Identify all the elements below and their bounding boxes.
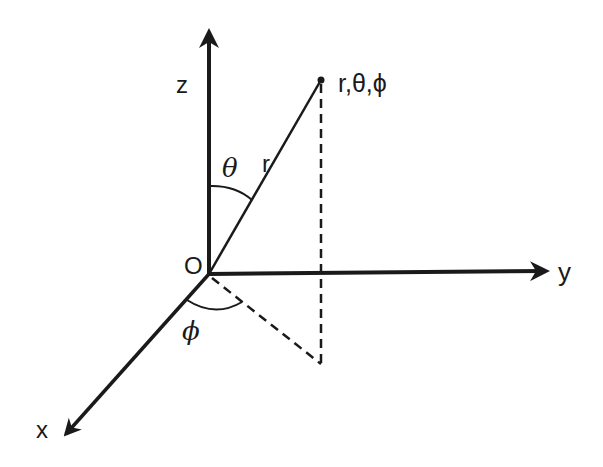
point-marker [318, 77, 325, 84]
phi-arc [187, 300, 242, 310]
theta-arc [209, 186, 252, 200]
theta-label: θ [222, 153, 238, 183]
z-axis-label: z [176, 71, 188, 98]
y-axis-label: y [558, 257, 571, 287]
x-axis [66, 274, 209, 434]
origin-label: O [184, 252, 203, 279]
radius-label: r [262, 150, 270, 177]
point-label: r,θ,ϕ [338, 69, 387, 97]
xy-projection-dashed [212, 278, 321, 364]
y-axis [209, 271, 546, 274]
x-axis-label: x [36, 416, 48, 443]
phi-label: ϕ [182, 316, 200, 346]
spherical-coordinates-diagram: z y x O r,θ,ϕ r θ ϕ [0, 0, 603, 467]
